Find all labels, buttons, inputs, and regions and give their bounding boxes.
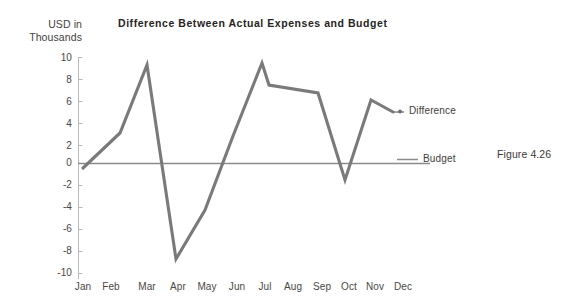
y-axis-ticks [79, 58, 83, 274]
figure-caption: Figure 4.26 [497, 148, 551, 160]
series-line-difference [83, 63, 393, 259]
figure-container: USD in Thousands Difference Between Actu… [0, 0, 585, 308]
legend-label-budget: Budget [423, 153, 456, 164]
legend-marker-difference-dot [398, 110, 402, 114]
legend-label-difference: Difference [409, 105, 456, 116]
